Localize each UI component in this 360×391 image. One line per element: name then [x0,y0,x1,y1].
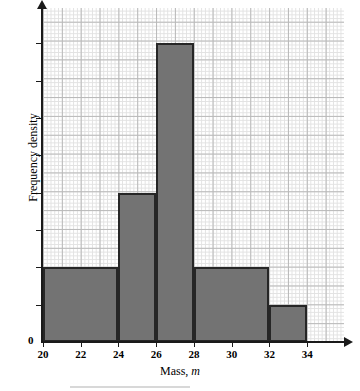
x-axis-tick-label: 22 [69,348,93,360]
histogram-bars [43,8,344,342]
x-axis-tick [81,342,82,347]
x-axis-tick-label: 26 [144,348,168,360]
x-axis-tick-label: 28 [182,348,206,360]
x-axis-tick [43,342,44,347]
x-axis-title-variable: m [191,364,200,378]
histogram-bar [118,193,156,342]
x-axis-tick-label: 24 [106,348,130,360]
x-axis-tick [232,342,233,347]
x-axis-tick-label: 20 [31,348,55,360]
x-axis-tick [156,342,157,347]
x-axis-tick [194,342,195,347]
histogram-bar [194,267,269,342]
y-axis-origin-label: 0 [28,334,34,346]
y-axis-tick [36,305,42,306]
x-axis-tick-label: 32 [257,348,281,360]
histogram-bar [156,43,194,342]
x-axis-tick-label: 30 [220,348,244,360]
x-axis-tick [269,342,270,347]
y-axis-tick [36,267,42,268]
histogram-bar [269,305,307,342]
y-axis-line [41,5,43,342]
histogram-chart: 2022242628303234 0 Mass, m Frequency den… [0,0,360,391]
x-axis-arrow-icon [344,337,353,347]
histogram-bar [43,267,118,342]
y-axis-arrow-icon [37,0,47,9]
x-axis-tick [118,342,119,347]
y-axis-tick [36,43,42,44]
x-axis-title: Mass, m [0,364,360,379]
page-divider [70,386,190,388]
x-axis-tick [307,342,308,347]
x-axis-title-text: Mass, [160,364,188,378]
x-axis-tick-label: 34 [295,348,319,360]
y-axis-title: Frequency density [26,78,41,238]
